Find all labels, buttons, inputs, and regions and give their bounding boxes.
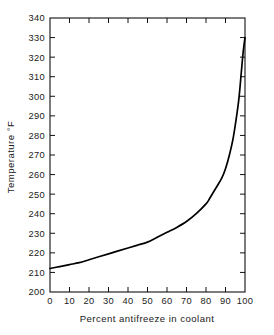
x-tick-label: 40 (122, 296, 133, 306)
x-tick-label: 70 (181, 296, 192, 306)
y-tick-label: 240 (28, 209, 45, 219)
chart-plot-area: 2002102202302402502602702802903003103203… (0, 0, 274, 335)
y-tick-label: 280 (28, 131, 45, 141)
y-tick-label: 230 (28, 229, 45, 239)
y-tick-label: 330 (28, 33, 45, 43)
plot-background (50, 18, 245, 292)
x-tick-label: 30 (103, 296, 114, 306)
y-tick-label: 250 (28, 190, 45, 200)
chart-figure: 2002102202302402502602702802903003103203… (0, 0, 274, 335)
y-tick-label: 310 (28, 72, 45, 82)
y-tick-label: 300 (28, 92, 45, 102)
x-tick-label: 60 (161, 296, 172, 306)
y-axis-title: Temperature °F (5, 121, 16, 194)
x-tick-label: 10 (64, 296, 75, 306)
x-tick-labels-group: 0102030405060708090100 (47, 296, 253, 306)
y-tick-labels-group: 2002102202302402502602702802903003103203… (28, 13, 45, 297)
y-tick-label: 340 (28, 13, 45, 23)
y-tick-label: 320 (28, 53, 45, 63)
x-tick-label: 0 (47, 296, 53, 306)
y-tick-label: 290 (28, 111, 45, 121)
x-tick-label: 100 (237, 296, 254, 306)
x-axis-title: Percent antifreeze in coolant (80, 313, 215, 324)
y-tick-label: 220 (28, 248, 45, 258)
y-tick-label: 260 (28, 170, 45, 180)
x-tick-label: 50 (142, 296, 153, 306)
y-tick-label: 270 (28, 150, 45, 160)
x-tick-label: 80 (200, 296, 211, 306)
x-tick-label: 20 (83, 296, 94, 306)
y-tick-label: 200 (28, 287, 45, 297)
x-tick-label: 90 (220, 296, 231, 306)
y-tick-label: 210 (28, 268, 45, 278)
